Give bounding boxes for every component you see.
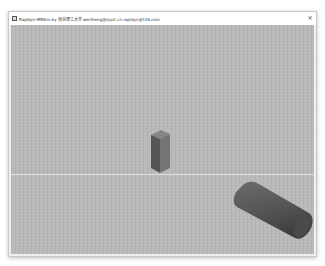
horizon-line bbox=[11, 174, 314, 175]
window-title: Rapidyn-MBSim by 南京理工大学 weizheng@njust.c… bbox=[19, 16, 160, 22]
app-icon bbox=[12, 16, 17, 21]
3d-viewport[interactable] bbox=[11, 25, 314, 254]
cylinder-object[interactable] bbox=[229, 180, 314, 248]
title-bar[interactable]: Rapidyn-MBSim by 南京理工大学 weizheng@njust.c… bbox=[9, 12, 316, 25]
close-button[interactable]: ✕ bbox=[306, 14, 314, 22]
app-window: Rapidyn-MBSim by 南京理工大学 weizheng@njust.c… bbox=[8, 11, 317, 257]
box-object[interactable] bbox=[149, 129, 171, 174]
close-icon: ✕ bbox=[307, 14, 312, 21]
